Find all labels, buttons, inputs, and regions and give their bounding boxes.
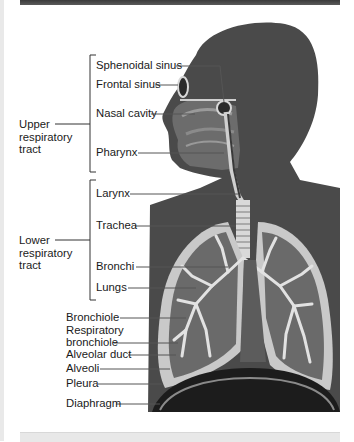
label-pharynx: Pharynx — [96, 146, 137, 159]
label-pleura: Pleura — [66, 377, 99, 390]
frontal-sinus-shape — [178, 77, 188, 97]
group-label-line: respiratory — [19, 247, 72, 260]
label-alveoli: Alveoli — [66, 362, 99, 375]
group-label-line: respiratory — [19, 131, 72, 144]
label-diaphragm: Diaphragm — [66, 397, 121, 410]
group-label-line: tract — [19, 259, 72, 272]
footer-band — [20, 432, 340, 442]
upper-respiratory-tract-label: Upper respiratory tract — [19, 118, 72, 156]
label-bronchiole: Bronchiole — [66, 311, 119, 324]
label-sphenoidal-sinus: Sphenoidal sinus — [96, 59, 182, 72]
group-label-line: Lower — [19, 234, 72, 247]
label-alveolar-duct: Alveolar duct — [66, 348, 131, 361]
group-label-line: Upper — [19, 118, 72, 131]
label-bronchi: Bronchi — [96, 260, 134, 273]
label-frontal-sinus: Frontal sinus — [96, 78, 161, 91]
label-nasal-cavity: Nasal cavity — [96, 107, 157, 120]
group-label-line: tract — [19, 143, 72, 156]
label-larynx: Larynx — [96, 187, 130, 200]
label-trachea: Trachea — [96, 219, 137, 232]
label-lungs: Lungs — [96, 281, 127, 294]
lower-respiratory-tract-label: Lower respiratory tract — [19, 234, 72, 272]
